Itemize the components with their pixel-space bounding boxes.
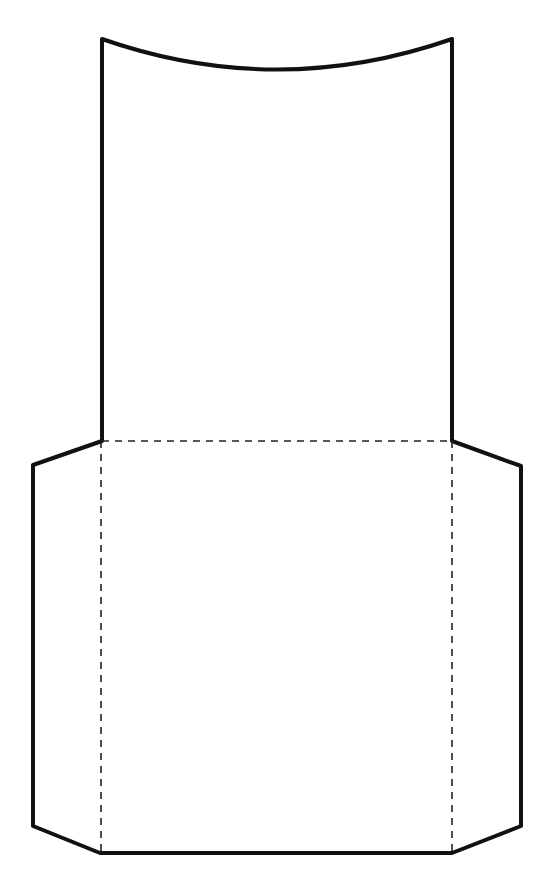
cut-outline — [33, 39, 521, 853]
envelope-template — [0, 0, 550, 881]
